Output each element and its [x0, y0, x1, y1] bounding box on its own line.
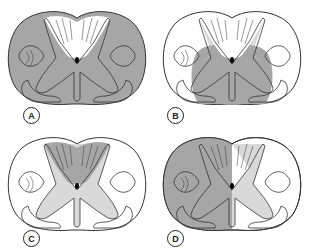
panel-label: D [167, 230, 184, 247]
panel-label: C [23, 230, 40, 247]
panel-label: B [167, 107, 184, 124]
spinal-cord-diagram-a [0, 0, 155, 126]
panel-d: D [155, 126, 310, 252]
panel-label: A [23, 107, 40, 124]
panel-c: C [0, 126, 155, 252]
panel-a: A [0, 0, 155, 126]
panel-b: B [155, 0, 310, 126]
